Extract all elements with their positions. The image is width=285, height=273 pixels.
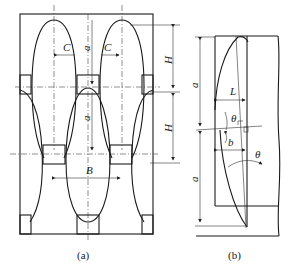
label-b: B — [86, 164, 93, 176]
label-a-top: a — [80, 45, 92, 51]
profile-bottom — [220, 130, 247, 227]
caption-b: (b) — [228, 249, 241, 262]
label-c-right: C — [104, 41, 112, 53]
caption-a: (a) — [77, 249, 90, 262]
pocket-right-edge — [132, 90, 153, 222]
theta-arc-top — [225, 112, 227, 130]
label-theta-top: θ — [231, 112, 237, 124]
sleeve-right-2 — [110, 145, 132, 164]
theta-arc-bottom — [228, 160, 262, 167]
theta-arrow-top — [225, 134, 227, 143]
pocket-top-right-lower-r — [132, 86, 144, 158]
label-c-left: C — [63, 41, 71, 53]
diagram-canvas: C C a a H H B (a) — [0, 0, 285, 273]
sleeve-left-3 — [20, 215, 31, 234]
label-a-bottom: a — [80, 115, 92, 121]
label-theta-bottom: θ — [255, 148, 261, 160]
figure-a: C C a a H H B (a) — [10, 5, 180, 262]
label-h-top: H — [162, 55, 174, 65]
label-h-bottom: H — [162, 123, 174, 133]
label-l: L — [229, 85, 236, 97]
sleeve-left-1 — [20, 75, 31, 94]
reference-line — [196, 126, 262, 130]
pocket-left-edge — [20, 90, 42, 222]
label-a-bottom: a — [188, 176, 200, 182]
label-b: b — [228, 136, 234, 148]
sleeve-right-3 — [142, 215, 153, 234]
profile-top — [215, 37, 248, 110]
sleeve-left-2 — [43, 145, 65, 164]
label-a-top: a — [188, 82, 200, 88]
figure-b: a a L θ b θ (b) — [188, 36, 280, 262]
